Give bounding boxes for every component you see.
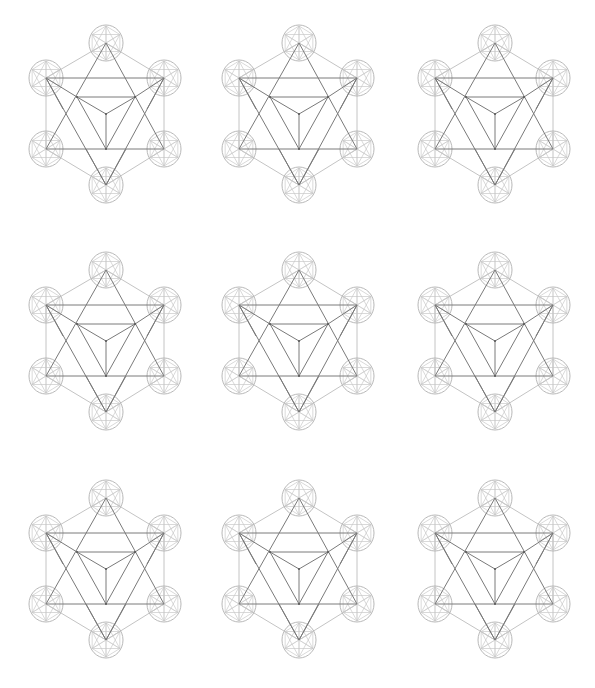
vertex-dot xyxy=(105,568,107,570)
metatron-figure xyxy=(222,480,374,658)
vertex-dot xyxy=(494,603,496,605)
diagram-sheet xyxy=(0,0,595,688)
vertex-dot xyxy=(298,113,300,115)
vertex-dot xyxy=(269,96,271,98)
metatron-figure xyxy=(29,480,181,658)
metatron-figure xyxy=(418,252,570,430)
star-tetrahedron-edge xyxy=(495,324,524,376)
vertex-dot xyxy=(134,96,136,98)
star-tetrahedron-edge xyxy=(106,97,135,149)
vertex-dot xyxy=(298,375,300,377)
metatron-figure xyxy=(418,25,570,203)
vertex-dot xyxy=(465,96,467,98)
vertex-dot xyxy=(298,340,300,342)
star-tetrahedron-edge xyxy=(299,97,328,149)
vertex-dot xyxy=(298,603,300,605)
vertex-dot xyxy=(523,551,525,553)
metatron-figure xyxy=(418,480,570,658)
vertex-dot xyxy=(523,323,525,325)
vertex-dot xyxy=(494,148,496,150)
vertex-dot xyxy=(269,323,271,325)
metatron-figure xyxy=(29,252,181,430)
vertex-dot xyxy=(76,96,78,98)
star-tetrahedron-edge xyxy=(495,552,524,604)
vertex-dot xyxy=(494,568,496,570)
vertex-dot xyxy=(76,551,78,553)
metatron-figure xyxy=(29,25,181,203)
vertex-dot xyxy=(327,551,329,553)
vertex-dot xyxy=(134,551,136,553)
star-tetrahedron-edge xyxy=(106,324,135,376)
vertex-dot xyxy=(298,148,300,150)
vertex-dot xyxy=(105,375,107,377)
vertex-dot xyxy=(465,323,467,325)
metatron-figure xyxy=(222,25,374,203)
vertex-dot xyxy=(494,375,496,377)
vertex-dot xyxy=(298,568,300,570)
vertex-dot xyxy=(269,551,271,553)
vertex-dot xyxy=(327,323,329,325)
star-tetrahedron-edge xyxy=(299,324,328,376)
vertex-dot xyxy=(105,148,107,150)
vertex-dot xyxy=(105,340,107,342)
vertex-dot xyxy=(105,603,107,605)
vertex-dot xyxy=(465,551,467,553)
vertex-dot xyxy=(134,323,136,325)
vertex-dot xyxy=(105,113,107,115)
vertex-dot xyxy=(494,113,496,115)
star-tetrahedron-edge xyxy=(495,97,524,149)
vertex-dot xyxy=(523,96,525,98)
metatron-figure xyxy=(222,252,374,430)
star-tetrahedron-edge xyxy=(299,552,328,604)
vertex-dot xyxy=(494,340,496,342)
vertex-dot xyxy=(76,323,78,325)
star-tetrahedron-edge xyxy=(106,552,135,604)
vertex-dot xyxy=(327,96,329,98)
